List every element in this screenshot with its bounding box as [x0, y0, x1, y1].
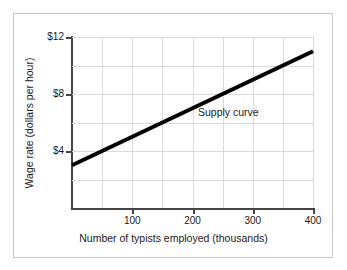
x-axis-tick	[193, 208, 195, 214]
x-axis-tick	[313, 208, 315, 214]
y-axis-tick-label: $12	[22, 31, 64, 42]
y-axis-tick	[66, 151, 72, 153]
x-axis-tick-label: 400	[293, 215, 333, 226]
y-axis-tick	[66, 94, 72, 96]
x-axis-tick-label: 200	[173, 215, 213, 226]
y-axis-tick	[66, 37, 72, 39]
y-axis-tick-label: $8	[22, 88, 64, 99]
figure: Wage rate (dollars per hour) Supply curv…	[0, 0, 347, 270]
x-axis-tick-label: 300	[233, 215, 273, 226]
series-layer	[72, 37, 313, 208]
x-axis-tick-label: 100	[112, 215, 152, 226]
gridline-vertical	[313, 37, 314, 208]
x-axis-title: Number of typists employed (thousands)	[0, 232, 347, 244]
supply-curve-label: Supply curve	[198, 106, 259, 118]
plot-area	[72, 37, 313, 208]
y-axis-title-container: Wage rate (dollars per hour)	[22, 37, 36, 208]
supply-curve-line	[72, 51, 313, 165]
x-axis-tick	[132, 208, 134, 214]
x-axis-tick	[253, 208, 255, 214]
y-axis-tick-label: $4	[22, 145, 64, 156]
y-axis-title: Wage rate (dollars per hour)	[23, 57, 35, 188]
